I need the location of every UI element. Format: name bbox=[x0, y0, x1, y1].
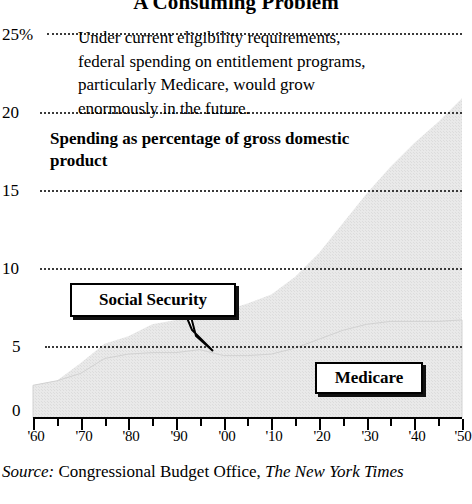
xtick-2045 bbox=[438, 419, 440, 426]
xtick-1995 bbox=[200, 419, 202, 426]
xtick-label-2010: '10 bbox=[265, 428, 282, 445]
callout-social-security[interactable]: Social Security bbox=[70, 283, 236, 317]
callout-medicare[interactable]: Medicare bbox=[315, 362, 423, 394]
xtick-1975 bbox=[105, 419, 107, 426]
source-prefix: Source: bbox=[2, 462, 54, 481]
xtick-label-2050: '50 bbox=[454, 428, 471, 445]
xtick-label-2040: '40 bbox=[408, 428, 425, 445]
gridline-10 bbox=[40, 268, 462, 270]
xtick-label-1970: '70 bbox=[75, 428, 92, 445]
chart-subtitle: Spending as percentage of gross domestic… bbox=[50, 128, 350, 172]
xtick-label-2000: '00 bbox=[218, 428, 235, 445]
xtick-label-1960: '60 bbox=[27, 428, 44, 445]
source-publication: The New York Times bbox=[265, 462, 404, 481]
xtick-label-2030: '30 bbox=[361, 428, 378, 445]
xtick-2025 bbox=[343, 419, 345, 426]
xtick-1965 bbox=[57, 419, 59, 426]
xtick-label-2020: '20 bbox=[313, 428, 330, 445]
gridline-5 bbox=[45, 346, 462, 348]
chart-page: A Consuming Problem 25% 20 15 10 5 0 Und… bbox=[0, 0, 472, 504]
ytick-label-10: 10 bbox=[2, 259, 19, 279]
ytick-label-0: 0 bbox=[12, 401, 21, 421]
chart-annotation: Under current eligibility requirements, … bbox=[78, 26, 378, 120]
ytick-label-20: 20 bbox=[2, 103, 19, 123]
gridline-15 bbox=[40, 190, 462, 192]
xtick-2015 bbox=[295, 419, 297, 426]
source-org: Congressional Budget Office, bbox=[59, 462, 261, 481]
ytick-label-5: 5 bbox=[12, 337, 21, 357]
xtick-1985 bbox=[152, 419, 154, 426]
xtick-2005 bbox=[247, 419, 249, 426]
ytick-label-15: 15 bbox=[2, 181, 19, 201]
xtick-label-1990: '90 bbox=[170, 428, 187, 445]
ytick-label-25: 25% bbox=[2, 25, 33, 45]
source-line: Source: Congressional Budget Office, The… bbox=[2, 461, 470, 483]
xtick-2035 bbox=[390, 419, 392, 426]
xtick-label-1980: '80 bbox=[122, 428, 139, 445]
